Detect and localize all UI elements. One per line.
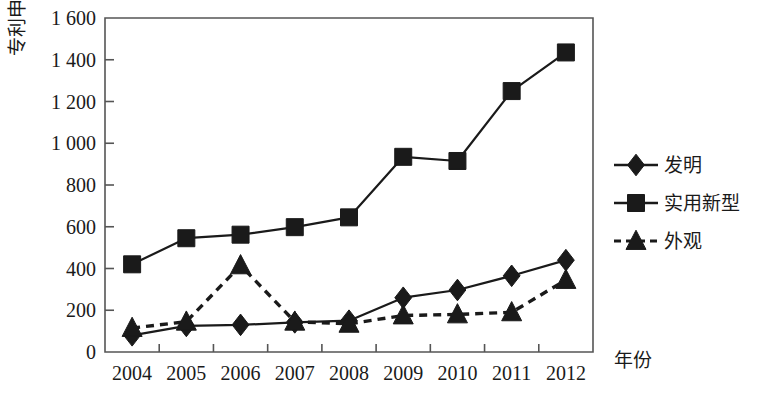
data-point-marker: [176, 311, 196, 330]
legend-marker-icon: [612, 150, 660, 180]
legend-label: 实用新型: [664, 190, 740, 216]
data-point-marker: [449, 279, 466, 301]
legend-item-1[interactable]: 发明: [612, 150, 758, 188]
data-point-marker: [232, 226, 249, 243]
data-point-marker: [124, 256, 141, 273]
data-point-marker: [178, 230, 195, 247]
patent-application-line-chart: 专利申请量/件 02004006008001 0001 2001 4001 60…: [0, 0, 758, 397]
legend-marker-icon: [612, 188, 660, 218]
series-3: [122, 255, 576, 337]
data-point-marker: [449, 152, 466, 169]
legend-label: 外观: [664, 228, 702, 254]
data-point-marker: [231, 255, 251, 274]
axes-frame: [105, 18, 593, 352]
data-point-marker: [232, 314, 249, 336]
legend-item-2[interactable]: 实用新型: [612, 188, 758, 226]
data-point-marker: [503, 83, 520, 100]
data-point-marker: [503, 265, 520, 287]
legend-label: 发明: [664, 152, 702, 178]
legend-item-3[interactable]: 外观: [612, 226, 758, 264]
data-point-marker: [286, 219, 303, 236]
series-line: [132, 52, 566, 264]
data-point-marker: [557, 249, 574, 271]
x-tick-label: 2012: [534, 358, 598, 388]
series-2: [124, 44, 575, 273]
data-point-marker: [395, 148, 412, 165]
x-axis-ticks: [159, 344, 539, 352]
data-point-marker: [341, 209, 358, 226]
legend-marker-icon: [612, 226, 660, 256]
data-point-marker: [556, 269, 576, 288]
y-axis-ticks: [105, 60, 114, 311]
data-point-marker: [557, 44, 574, 61]
x-axis-title: 年份: [614, 345, 652, 372]
chart-legend: 发明实用新型外观: [612, 150, 758, 264]
